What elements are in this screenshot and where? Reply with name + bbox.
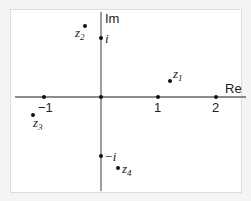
imaginary-axis-label: Im (105, 11, 119, 26)
point-z2 (83, 24, 87, 28)
real-axis-label: Re (225, 81, 242, 96)
origin-dot (99, 95, 103, 99)
point-z1 (168, 79, 172, 83)
point-z2-label: z2 (74, 25, 85, 42)
tick-2 (214, 95, 218, 99)
tick-minus-i (99, 154, 103, 158)
tick-label-i: i (105, 31, 109, 46)
tick-minus-1 (42, 95, 46, 99)
tick-label-2: 2 (212, 100, 219, 115)
point-z4-label: z4 (121, 161, 132, 178)
tick-1 (156, 95, 160, 99)
tick-i (99, 36, 103, 40)
point-z4 (116, 166, 120, 170)
point-z1-label: z1 (172, 66, 183, 83)
point-z3-label: z3 (32, 115, 43, 132)
tick-label-minus-1: −1 (38, 100, 53, 115)
complex-plane: Re Im −1 1 2 i −i z1 z2 z3 z4 (0, 0, 251, 201)
tick-label-1: 1 (154, 100, 161, 115)
tick-label-minus-i: −i (104, 149, 117, 164)
